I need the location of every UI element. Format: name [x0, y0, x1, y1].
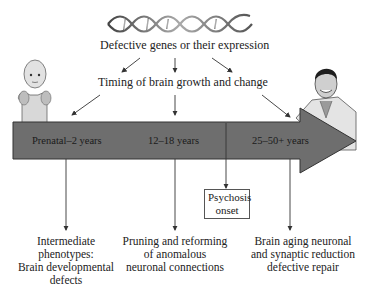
infant-figure-icon: [18, 60, 51, 123]
outcome-line: Pruning and reforming: [122, 235, 228, 248]
outcome-line: neuronal connections: [122, 261, 228, 274]
stage-label-adolescence: 12–18 years: [148, 135, 199, 146]
psychosis-onset-box: Psychosis onset: [204, 189, 250, 219]
outcome-line: Brain developmental: [16, 261, 116, 274]
outcome-line: of anomalous: [122, 248, 228, 261]
outcome-developmental: Intermediate phenotypes: Brain developme…: [16, 235, 116, 287]
gene-to-timing-arrows: [122, 58, 232, 72]
outcome-line: defective repair: [250, 261, 356, 274]
outcome-line: Intermediate: [16, 235, 116, 248]
onset-line1: Psychosis: [208, 191, 246, 204]
dna-helix-icon: [108, 15, 252, 32]
outcome-pruning: Pruning and reforming of anomalous neuro…: [122, 235, 228, 274]
outcome-line: phenotypes:: [16, 248, 116, 261]
timing-to-timeline-arrows: [72, 95, 290, 117]
timing-label: Timing of brain growth and change: [98, 76, 262, 89]
dna-label: Defective genes or their expression: [100, 39, 260, 52]
stage-label-prenatal: Prenatal–2 years: [32, 135, 102, 146]
outcome-line: Brain aging neuronal: [250, 235, 356, 248]
outcome-line: defects: [16, 274, 116, 287]
onset-line2: onset: [208, 204, 246, 217]
stage-label-adulthood: 25–50+ years: [252, 135, 309, 146]
outcome-aging: Brain aging neuronal and synaptic reduct…: [250, 235, 356, 274]
outcome-line: and synaptic reduction: [250, 248, 356, 261]
